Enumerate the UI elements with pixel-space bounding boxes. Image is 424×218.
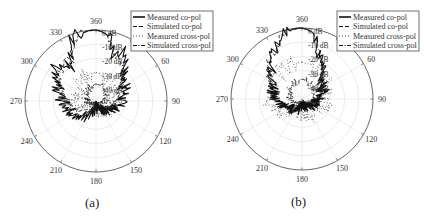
figure-canvas: 3603060901201501802102402703003300 dB-10…: [0, 0, 424, 218]
angle-tick-label: 180: [90, 177, 102, 186]
tick-mark: [361, 133, 363, 134]
caption-a: (a): [85, 195, 99, 211]
radial-tick-label: -30 dB: [102, 72, 123, 81]
grid-spoke: [61, 40, 97, 101]
legend-label: Measured co-pol: [147, 13, 202, 22]
polar-chart-b: 3603060901201501802102402703003300 dB-10…: [216, 11, 419, 184]
angle-tick-label: 300: [227, 55, 239, 64]
tick-mark: [241, 133, 243, 134]
radial-tick-label: -20 dB: [102, 57, 123, 66]
radial-tick-label: -10 dB: [102, 43, 123, 52]
tick-mark: [361, 64, 363, 65]
radial-tick-label: -30 dB: [308, 70, 329, 79]
tick-mark: [336, 158, 337, 160]
legend-label: Simulated cross-pol: [147, 41, 212, 50]
tick-mark: [35, 66, 37, 67]
angle-tick-label: 240: [227, 135, 239, 144]
angle-tick-label: 360: [296, 15, 308, 24]
angle-tick-label: 240: [21, 137, 33, 146]
angle-tick-label: 120: [159, 137, 171, 146]
caption-b: (b): [291, 194, 306, 210]
legend-label: Measured cross-pol: [147, 32, 211, 41]
angle-tick-label: 90: [172, 97, 180, 106]
tick-mark: [267, 158, 268, 160]
grid-spoke: [35, 66, 96, 102]
tick-mark: [61, 40, 62, 42]
angle-tick-label: 270: [216, 95, 228, 104]
radial-tick-label: -40 dB: [102, 86, 123, 95]
legend-label: Measured co-pol: [353, 13, 408, 22]
tick-mark: [130, 160, 131, 162]
radial-tick-label: 0 dB: [102, 29, 116, 38]
angle-tick-label: 60: [367, 55, 375, 64]
legend-label: Simulated cross-pol: [353, 41, 418, 50]
radial-tick-label: -40 dB: [308, 84, 329, 93]
angle-tick-label: 330: [50, 28, 62, 37]
angle-tick-label: 120: [365, 135, 377, 144]
angle-tick-label: 330: [256, 26, 268, 35]
angle-tick-label: 210: [50, 166, 62, 175]
legend-label: Measured cross-pol: [353, 32, 417, 41]
tick-mark: [61, 160, 62, 162]
angle-tick-label: 180: [296, 175, 308, 184]
tick-mark: [155, 135, 157, 136]
tick-mark: [155, 66, 157, 67]
angle-tick-label: 150: [336, 164, 348, 173]
radial-tick-label: -10 dB: [308, 41, 329, 50]
angle-tick-label: 300: [21, 57, 33, 66]
tick-mark: [267, 38, 268, 40]
legend-label: Simulated co-pol: [147, 22, 203, 31]
angle-tick-label: 360: [90, 17, 102, 26]
radial-tick-label: 0 dB: [308, 27, 322, 36]
angle-tick-label: 210: [256, 164, 268, 173]
tick-mark: [241, 64, 243, 65]
radial-tick-label: -20 dB: [308, 55, 329, 64]
angle-tick-label: 60: [161, 57, 169, 66]
angle-tick-label: 150: [130, 166, 142, 175]
angle-tick-label: 90: [378, 95, 386, 104]
angle-tick-label: 270: [10, 97, 22, 106]
tick-mark: [35, 135, 37, 136]
polar-chart-a: 3603060901201501802102402703003300 dB-10…: [10, 11, 213, 186]
legend-label: Simulated co-pol: [353, 22, 409, 31]
